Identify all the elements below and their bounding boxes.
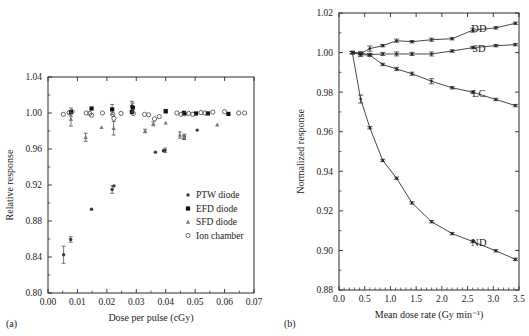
data-point <box>430 38 433 41</box>
x-tick-label: 0.0 <box>333 294 345 304</box>
legend-label-ion-chamber: Ion chamber <box>196 231 245 241</box>
y-tick-label: 0.94 <box>316 167 333 177</box>
marker-ion-chamber <box>147 113 151 117</box>
data-point <box>411 202 414 205</box>
series-lc <box>350 51 518 107</box>
marker-efd <box>164 109 168 113</box>
series-ion-chamber <box>61 110 246 121</box>
data-point <box>369 47 372 50</box>
data-point <box>514 22 517 25</box>
data-point <box>359 53 362 56</box>
data-point <box>411 72 414 75</box>
marker-efd <box>131 106 135 110</box>
marker-ion-chamber <box>119 111 123 115</box>
data-point <box>430 220 433 223</box>
data-point <box>395 39 398 42</box>
x-tick-label: 1.5 <box>410 294 422 304</box>
marker-ion-chamber <box>222 110 226 114</box>
x-tick-label: 3.5 <box>513 294 525 304</box>
panel-b: 0.00.51.01.52.02.53.03.50.880.900.920.94… <box>264 0 529 336</box>
x-tick-label: 3.0 <box>487 294 499 304</box>
x-tick-label: 0.01 <box>69 297 86 307</box>
panel-a-label-wrap: (a) <box>6 313 17 331</box>
marker-sfd <box>164 121 168 125</box>
marker-ion-chamber <box>152 117 156 121</box>
marker-sfd <box>99 125 103 129</box>
marker-ion-chamber <box>242 111 246 115</box>
marker-ion-chamber <box>100 111 104 115</box>
data-point <box>381 63 384 66</box>
legend-label-ptw-diode: PTW diode <box>196 190 239 200</box>
marker-ptw <box>186 193 189 196</box>
marker-efd <box>89 106 93 110</box>
marker-sfd <box>178 133 182 137</box>
y-tick-label: 0.80 <box>25 288 42 298</box>
data-point <box>451 37 454 40</box>
data-point <box>369 126 372 129</box>
marker-ptw <box>90 208 93 211</box>
y-tick-label: 0.98 <box>316 88 333 98</box>
series-sd <box>350 43 518 56</box>
data-point <box>359 98 362 101</box>
data-point <box>369 54 372 57</box>
series-sfd-diode <box>69 113 219 142</box>
marker-ion-chamber <box>112 116 116 120</box>
data-point <box>395 177 398 180</box>
data-point <box>381 53 384 56</box>
x-tick-label: 0.05 <box>187 297 204 307</box>
y-tick-label: 1.02 <box>316 8 333 18</box>
panel-a: 0.000.010.020.030.040.050.060.070.800.84… <box>0 0 264 336</box>
x-axis-title: Dose per pulse (cGy) <box>108 312 193 324</box>
marker-sfd <box>186 220 190 224</box>
marker-ion-chamber <box>142 112 146 116</box>
data-point <box>411 53 414 56</box>
x-tick-label: 0.02 <box>99 297 116 307</box>
data-point <box>495 98 498 101</box>
marker-ion-chamber <box>186 233 190 237</box>
marker-sfd <box>215 123 219 127</box>
marker-ptw <box>69 238 72 241</box>
data-point <box>495 250 498 253</box>
panel-a-frame <box>48 77 254 293</box>
marker-ion-chamber <box>175 111 179 115</box>
x-tick-label: 0.5 <box>359 294 371 304</box>
panel-a-plot: 0.000.010.020.030.040.050.060.070.800.84… <box>0 0 264 336</box>
y-tick-label: 0.92 <box>25 180 42 190</box>
marker-ptw <box>163 149 166 152</box>
marker-ptw <box>62 253 65 256</box>
panel-a-label: (a) <box>6 318 17 329</box>
marker-ptw <box>112 184 115 187</box>
data-point <box>514 258 517 261</box>
data-point <box>495 27 498 30</box>
y-tick-label: 0.88 <box>25 216 42 226</box>
marker-ion-chamber <box>211 110 215 114</box>
panel-a-legend: PTW diodeEFD diodeSFD diodeIon chamber <box>186 190 245 241</box>
marker-ptw <box>196 128 199 131</box>
x-tick-label: 0.04 <box>157 297 174 307</box>
marker-sfd <box>84 135 88 139</box>
data-point <box>395 68 398 71</box>
data-point <box>381 159 384 162</box>
panel-b-label: (b) <box>284 318 296 329</box>
y-tick-label: 1.00 <box>316 48 333 58</box>
figure-container: 0.000.010.020.030.040.050.060.070.800.84… <box>0 0 529 336</box>
data-point <box>495 44 498 47</box>
data-point <box>351 51 354 54</box>
data-point <box>451 86 454 89</box>
y-tick-label: 0.90 <box>316 246 333 256</box>
x-tick-label: 0.06 <box>216 297 233 307</box>
curve-label-lc: LC <box>472 88 485 99</box>
y-axis-title: Normalized response <box>295 109 306 194</box>
panel-b-label-wrap: (b) <box>284 313 296 331</box>
legend-label-efd-diode: EFD diode <box>196 204 237 214</box>
marker-sfd <box>69 117 73 121</box>
data-point <box>451 232 454 235</box>
series-dd <box>350 22 518 55</box>
marker-ion-chamber <box>61 112 65 116</box>
marker-ion-chamber <box>237 111 241 115</box>
y-tick-label: 0.84 <box>25 252 42 262</box>
marker-ptw <box>110 188 113 191</box>
curve-label-dd: DD <box>471 23 487 34</box>
marker-efd <box>110 107 114 111</box>
panel-b-plot: 0.00.51.01.52.02.53.03.50.880.900.920.94… <box>264 0 529 336</box>
